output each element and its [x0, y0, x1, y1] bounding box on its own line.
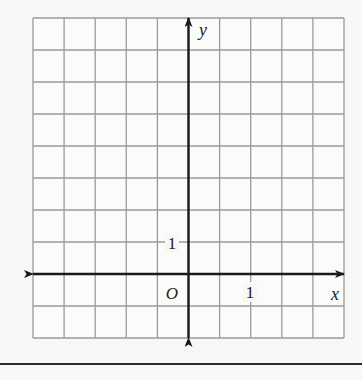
coordinate-plane-svg: 1 1 O x y: [0, 0, 362, 380]
y-tick-label: 1: [168, 234, 177, 253]
y-axis-label: y: [197, 20, 207, 40]
x-tick-label: 1: [246, 283, 255, 302]
x-axis-label: x: [330, 284, 339, 304]
origin-label: O: [166, 284, 178, 303]
coordinate-plane-figure: 1 1 O x y: [0, 0, 362, 380]
